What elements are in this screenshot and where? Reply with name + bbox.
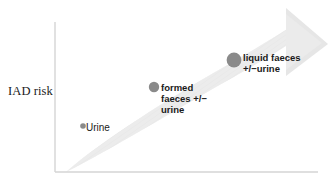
point-label-liquid-faeces: liquid faeces +/−urine: [243, 53, 301, 75]
point-label-formed-faeces: formed faeces +/− urine: [161, 83, 207, 115]
point-label-urine: Urine: [86, 123, 110, 134]
marker-urine: [80, 123, 86, 129]
marker-formed-faeces: [149, 82, 159, 92]
y-axis-label: IAD risk: [8, 84, 53, 99]
marker-liquid-faeces: [227, 53, 242, 68]
iad-risk-diagram: IAD risk Urine formed faeces +/− urine l…: [0, 0, 334, 184]
